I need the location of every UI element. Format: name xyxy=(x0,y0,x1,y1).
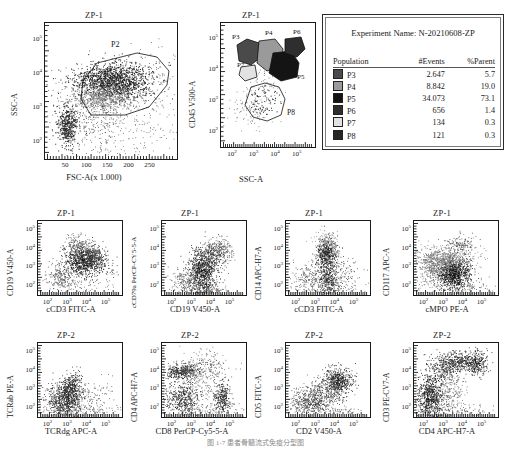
parent-percent-cell: 19.0 xyxy=(445,80,495,92)
plot-panel-ccd3-cd19: ZP-1 CD19 V450-A 105104103102 cCD3 FITC-… xyxy=(4,208,128,316)
y-tick-label: 105 xyxy=(14,224,35,233)
population-cell: P6 xyxy=(333,105,397,117)
y-tick-label: 102 xyxy=(390,280,411,289)
x-axis-label: SSC-A xyxy=(186,174,316,184)
population-cell: P7 xyxy=(333,117,397,129)
plot-area[interactable] xyxy=(285,342,371,418)
scatter-canvas xyxy=(38,221,122,295)
x-tick-label: 100 xyxy=(78,161,94,169)
events-cell: 34.073 xyxy=(397,92,445,104)
plot-title: ZP-1 xyxy=(4,208,128,218)
x-tick-label: 103 xyxy=(245,149,261,158)
plot-area[interactable] xyxy=(161,342,247,418)
x-tick-label: 105 xyxy=(98,297,114,306)
gate-label: P8 xyxy=(287,108,295,117)
y-tick-label: 103 xyxy=(196,95,218,104)
parent-percent-cell: 1.4 xyxy=(445,105,495,117)
y-tick-labels: 105104103102 xyxy=(262,220,283,294)
parent-percent-cell: 73.1 xyxy=(445,92,495,104)
y-tick-label: 102 xyxy=(138,280,159,289)
x-tick-label: 105 xyxy=(222,297,238,306)
y-axis-label: SSC-A xyxy=(10,93,19,116)
x-tick-label: 105 xyxy=(474,297,490,306)
plot-title: ZP-1 xyxy=(380,208,504,218)
y-tick-labels: 105104103102 xyxy=(196,22,218,146)
experiment-name-label: Experiment Name: N-20210608-ZP xyxy=(323,28,503,38)
x-tick-label: 200 xyxy=(120,161,136,169)
population-cell: P8 xyxy=(333,129,397,141)
plot-area[interactable] xyxy=(37,220,123,296)
gate-polygon[interactable] xyxy=(285,37,305,57)
x-tick-label: 102 xyxy=(164,297,180,306)
population-cell: P4 xyxy=(333,80,397,92)
x-tick-label: 105 xyxy=(98,419,114,428)
x-tick-label: 102 xyxy=(416,297,432,306)
scatter-canvas xyxy=(38,343,122,417)
y-tick-label: 102 xyxy=(196,126,218,135)
y-tick-label: 105 xyxy=(262,224,283,233)
population-label: P3 xyxy=(347,71,356,80)
y-tick-labels: 105104103102 xyxy=(20,22,42,158)
x-tick-label: 104 xyxy=(202,419,218,428)
plot-panel-cd4-cd3: ZP-2 CD3 PE-CV7-A 105104103102 CD4 APC-H… xyxy=(380,330,504,438)
y-tick-label: 105 xyxy=(196,33,218,42)
plot-area[interactable] xyxy=(413,342,499,418)
y-tick-labels: 105104103102 xyxy=(390,220,411,294)
plot-area[interactable] xyxy=(285,220,371,296)
column-header-parent: %Parent xyxy=(445,57,495,68)
plot-area[interactable] xyxy=(161,220,247,296)
plot-area[interactable] xyxy=(37,342,123,418)
x-tick-label: 103 xyxy=(183,297,199,306)
y-tick-label: 104 xyxy=(14,243,35,252)
y-tick-label: 103 xyxy=(14,383,35,392)
plot-panel-cd19-ccd79a: ZP-1 cCD79a PerCP-CY5-5-A 105104103102 C… xyxy=(128,208,252,316)
scatter-canvas xyxy=(286,343,370,417)
x-tick-label: 104 xyxy=(202,297,218,306)
x-tick-label: 102 xyxy=(40,419,56,428)
events-cell: 134 xyxy=(397,117,445,129)
x-tick-label: 250 xyxy=(142,161,158,169)
plot-title: ZP-2 xyxy=(252,330,376,340)
plot-area[interactable]: P2 xyxy=(44,22,178,160)
gate-label: P6 xyxy=(293,28,301,36)
scatter-canvas xyxy=(286,221,370,295)
x-tick-label: 103 xyxy=(435,419,451,428)
plot-title: ZP-1 xyxy=(128,208,252,218)
plot-panel-fsc-ssc: ZP-1 SSC-A 105104103102 P2 FSC-A(x 1.000… xyxy=(8,10,180,185)
population-color-swatch xyxy=(333,105,343,115)
x-tick-label: 103 xyxy=(59,297,75,306)
population-color-swatch xyxy=(333,69,343,79)
y-tick-label: 104 xyxy=(262,365,283,374)
y-tick-label: 105 xyxy=(138,224,159,233)
table-header-row: Population #Events %Parent xyxy=(333,57,495,68)
population-cell: P5 xyxy=(333,92,397,104)
y-tick-label: 103 xyxy=(262,261,283,270)
y-tick-labels: 105104103102 xyxy=(14,220,35,294)
x-tick-label: 104 xyxy=(326,419,342,428)
population-label: P8 xyxy=(347,132,356,141)
y-tick-label: 102 xyxy=(14,280,35,289)
y-tick-label: 104 xyxy=(138,243,159,252)
events-cell: 121 xyxy=(397,129,445,141)
y-tick-label: 104 xyxy=(390,243,411,252)
x-tick-label: 102 xyxy=(164,419,180,428)
plot-panel-cd2-cd5: ZP-2 CD5 FITC-A 105104103102 CD2 V450-A … xyxy=(252,330,376,438)
y-tick-label: 102 xyxy=(14,402,35,411)
y-tick-label: 105 xyxy=(262,346,283,355)
x-tick-label: 104 xyxy=(267,149,283,158)
x-tick-label: 105 xyxy=(474,419,490,428)
x-tick-label: 50 xyxy=(57,161,73,169)
table-row: P534.07373.1 xyxy=(333,92,495,104)
plot-area[interactable] xyxy=(413,220,499,296)
x-tick-label: 102 xyxy=(288,297,304,306)
parent-percent-cell: 0.3 xyxy=(445,117,495,129)
y-tick-label: 102 xyxy=(262,402,283,411)
plot-title: ZP-2 xyxy=(128,330,252,340)
plot-title: ZP-1 xyxy=(186,10,316,20)
population-label: P5 xyxy=(347,95,356,104)
x-tick-label: 104 xyxy=(78,297,94,306)
y-tick-label: 104 xyxy=(14,365,35,374)
plot-area[interactable]: P8P3P4P6P7P5 xyxy=(220,22,316,148)
scatter-canvas xyxy=(414,343,498,417)
scatter-canvas: P8P3P4P6P7P5 xyxy=(221,23,315,147)
